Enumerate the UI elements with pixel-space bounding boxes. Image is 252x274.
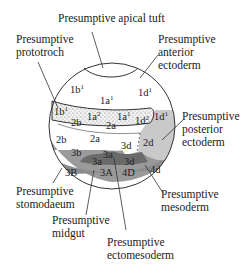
cell-3a-upper: 3a bbox=[103, 149, 113, 160]
cell-4D: 4D bbox=[122, 167, 135, 178]
label-prototroch-line2: prototroch bbox=[16, 46, 64, 59]
cell-3B: 3B bbox=[65, 167, 77, 178]
cell-3a: 3a bbox=[92, 156, 102, 167]
label-apical-tuft: Presumptive apical tuft bbox=[58, 12, 165, 25]
cell-4d: 4d bbox=[150, 164, 161, 175]
label-ectomesoderm-line2: ectomesoderm bbox=[107, 249, 174, 261]
label-mesoderm-line1: Presumptive bbox=[161, 188, 219, 201]
cell-2d: 2d bbox=[143, 137, 154, 148]
label-ectomesoderm-line1: Presumptive bbox=[107, 236, 165, 249]
label-posterior-ectoderm-line1: Presumptive bbox=[182, 110, 240, 123]
cell-2b-band: 2b bbox=[71, 117, 82, 128]
cell-3d: 3d bbox=[121, 140, 132, 151]
label-midgut-line1: Presumptive bbox=[52, 214, 110, 227]
label-midgut-line2: midgut bbox=[52, 227, 85, 240]
cell-3d-dark: 3d bbox=[124, 156, 135, 167]
label-stomodaeum-line1: Presumptive bbox=[16, 185, 74, 198]
label-mesoderm-line2: mesoderm bbox=[161, 201, 209, 213]
cell-2a-band: 2a bbox=[106, 120, 116, 131]
label-anterior-ectoderm-line1: Presumptive bbox=[158, 33, 216, 46]
label-anterior-ectoderm-line2: anterior bbox=[158, 46, 194, 58]
label-posterior-ectoderm-line3: ectoderm bbox=[182, 136, 225, 148]
label-posterior-ectoderm-line2: posterior bbox=[182, 123, 223, 136]
diagram-canvas: Presumptive apical tuft Presumptive prot… bbox=[0, 0, 252, 274]
cell-2b: 2b bbox=[56, 134, 67, 145]
label-prototroch-line1: Presumptive bbox=[16, 33, 74, 46]
fate-map-diagram: Presumptive apical tuft Presumptive prot… bbox=[0, 0, 252, 274]
cell-3A: 3A bbox=[100, 167, 113, 178]
label-stomodaeum-line2: stomodaeum bbox=[16, 198, 75, 210]
cell-2a: 2a bbox=[90, 133, 100, 144]
label-anterior-ectoderm-line3: ectoderm bbox=[158, 59, 201, 71]
cell-3b: 3b bbox=[71, 147, 82, 158]
